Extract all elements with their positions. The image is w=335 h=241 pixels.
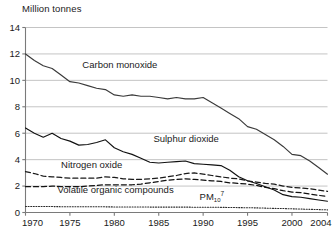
y-tick-label: 8 xyxy=(15,101,20,112)
series-label-base: PM xyxy=(200,191,214,202)
series-label-superscript: 7 xyxy=(221,190,225,197)
y-tick-label: 4 xyxy=(15,154,20,165)
y-tick-label: 10 xyxy=(9,75,20,86)
y-tick-label: 6 xyxy=(15,128,20,139)
series-label-1: Sulphur dioxide xyxy=(153,133,219,144)
x-tick-label: 1975 xyxy=(59,217,80,228)
series-labels-group: Carbon monoxideSulphur dioxideNitrogen o… xyxy=(57,59,224,203)
series-label-4: PM107 xyxy=(200,190,225,204)
series-label-0: Carbon monoxide xyxy=(82,59,157,70)
x-tick-label: 1985 xyxy=(148,217,169,228)
chart-container: Million tonnes 02468101214 1970197519801… xyxy=(0,0,335,241)
y-tick-label: 12 xyxy=(9,48,20,59)
y-tick-label: 2 xyxy=(15,180,20,191)
y-tick-label: 0 xyxy=(15,207,20,218)
x-tick-label: 2004 xyxy=(310,217,331,228)
series-label-2: Nitrogen oxide xyxy=(61,159,122,170)
x-tick-label: 1990 xyxy=(193,217,214,228)
series-label-3: Volatile organic compounds xyxy=(57,184,173,195)
y-tick-labels-group: 02468101214 xyxy=(9,22,20,218)
x-tick-label: 1980 xyxy=(104,217,125,228)
series-label-subscript: 10 xyxy=(214,197,221,203)
line-chart-plot: 02468101214 1970197519801985199019952000… xyxy=(0,0,335,241)
x-tick-label: 1995 xyxy=(237,217,258,228)
x-tick-label: 2000 xyxy=(281,217,302,228)
series-line-0 xyxy=(26,54,328,174)
x-tick-label: 1970 xyxy=(22,217,43,228)
x-tick-labels-group: 19701975198019851990199520002004 xyxy=(22,217,332,228)
series-line-4 xyxy=(26,207,328,210)
y-tick-label: 14 xyxy=(9,22,20,33)
